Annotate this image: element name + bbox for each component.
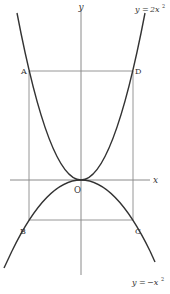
- lower-curve-label-eq: =: [139, 278, 146, 287]
- upper-curve-label: y = 2x 2: [134, 3, 165, 14]
- lower-parabola-tail-right: [150, 251, 155, 262]
- point-b-label: B: [20, 227, 26, 236]
- lower-curve-label: y = −x 2: [131, 276, 164, 287]
- parabola-diagram: y x O A D B C y = 2x 2 y = −x 2: [0, 0, 170, 294]
- upper-curve-label-rhs: 2x: [149, 5, 160, 14]
- origin-label: O: [74, 185, 81, 195]
- point-d-label: D: [135, 67, 141, 76]
- x-axis-label: x: [153, 175, 158, 185]
- lower-curve-label-lhs: y: [131, 278, 137, 287]
- lower-curve-label-exp: 2: [161, 276, 164, 282]
- upper-curve-label-eq: =: [142, 5, 149, 14]
- upper-curve-label-exp: 2: [162, 3, 165, 9]
- upper-curve-label-lhs: y: [134, 5, 140, 14]
- lower-parabola-tail-left: [4, 251, 12, 268]
- y-axis-label: y: [78, 2, 85, 12]
- lower-curve-label-rhs: −x: [147, 278, 159, 287]
- point-a-label: A: [20, 67, 27, 76]
- point-c-label: C: [135, 227, 141, 236]
